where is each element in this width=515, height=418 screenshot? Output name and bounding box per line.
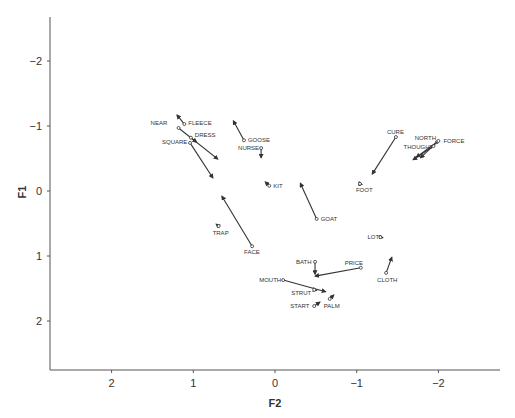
onset-marker (268, 184, 271, 187)
vowel-label: NURSE (238, 145, 259, 151)
vowel-label: BATH (296, 259, 312, 265)
onset-marker (437, 139, 440, 142)
onset-marker (183, 123, 186, 126)
onset-marker (314, 260, 317, 263)
trajectory-arrow (190, 143, 213, 178)
x-tick-label: −2 (432, 377, 445, 389)
trajectory-arrow (315, 268, 361, 276)
vowel-label: LOT (367, 234, 379, 240)
trajectory-arrow (233, 121, 244, 141)
vowel-goat: GOAT (300, 183, 337, 222)
onset-marker (189, 136, 192, 139)
onset-marker (242, 139, 245, 142)
onset-marker (313, 305, 316, 308)
y-ticks: −2−1012 (29, 55, 50, 327)
y-axis-title: F1 (16, 186, 28, 199)
vowel-label: NEAR (151, 120, 168, 126)
vowel-thought: THOUGHT (403, 144, 435, 160)
x-tick-label: −1 (350, 377, 363, 389)
vowel-label: FOOT (356, 187, 373, 193)
vowel-trap: TRAP (213, 224, 229, 236)
vowel-formant-chart: −2−1012 210−1−2 F1 F2 FLEECENEARDRESSSQU… (0, 0, 515, 418)
onset-marker (313, 288, 316, 291)
vowel-cloth: CLOTH (377, 257, 397, 283)
x-tick-label: 1 (190, 377, 196, 389)
vowel-label: START (290, 303, 309, 309)
y-tick-label: 0 (36, 185, 42, 197)
x-axis-title: F2 (269, 397, 282, 409)
onset-marker (177, 126, 180, 129)
vowel-label: PRICE (345, 260, 363, 266)
trajectory-arrow (300, 183, 316, 219)
vowel-label: FORCE (443, 138, 464, 144)
onset-marker (394, 136, 397, 139)
x-ticks: 210−1−2 (109, 370, 445, 389)
vowel-label: FACE (244, 249, 260, 255)
vowel-label: SQUARE (162, 139, 187, 145)
onset-marker (359, 266, 362, 269)
trajectory-arrow (386, 257, 392, 273)
onset-marker (260, 147, 263, 150)
onset-marker (282, 279, 285, 282)
y-tick-label: −2 (29, 55, 42, 67)
vowel-dress: DRESS (189, 132, 215, 143)
trajectory-arrow (222, 196, 252, 246)
axes: −2−1012 210−1−2 F1 F2 (16, 17, 500, 409)
plot-area: FLEECENEARDRESSSQUAREGOOSENURSEKITGOATFO… (151, 115, 465, 309)
vowel-label: FLEECE (188, 120, 211, 126)
vowel-label: PALM (324, 303, 340, 309)
onset-marker (379, 236, 382, 239)
vowel-kit: KIT (265, 182, 283, 189)
vowel-price: PRICE (315, 260, 363, 276)
vowel-label: GOOSE (248, 137, 270, 143)
vowel-label: NORTH (415, 135, 436, 141)
vowel-palm: PALM (324, 295, 340, 309)
vowel-strut: STRUT (291, 288, 316, 296)
vowel-label: GOAT (321, 216, 338, 222)
vowel-face: FACE (222, 196, 260, 255)
x-tick-label: 0 (272, 377, 278, 389)
vowel-bath: BATH (296, 259, 317, 274)
trajectory-arrow (372, 137, 396, 174)
vowel-lot: LOT (367, 234, 382, 240)
vowel-label: CLOTH (377, 277, 397, 283)
vowel-label: STRUT (291, 290, 311, 296)
y-tick-label: −1 (29, 120, 42, 132)
vowel-nurse: NURSE (238, 145, 263, 158)
vowel-cure: CURE (372, 129, 404, 174)
vowel-label: DRESS (195, 132, 216, 138)
vowel-start: START (290, 302, 320, 309)
onset-marker (385, 271, 388, 274)
vowel-label: MOUTH (259, 277, 281, 283)
vowel-label: TRAP (213, 230, 229, 236)
onset-marker (251, 245, 254, 248)
onset-marker (358, 182, 361, 185)
onset-marker (189, 141, 192, 144)
vowel-label: CURE (387, 129, 404, 135)
y-tick-label: 2 (36, 315, 42, 327)
y-tick-label: 1 (36, 250, 42, 262)
vowel-goose: GOOSE (233, 121, 270, 144)
onset-marker (328, 297, 331, 300)
vowel-fleece: FLEECE (177, 115, 212, 126)
x-tick-label: 2 (109, 377, 115, 389)
onset-marker (315, 217, 318, 220)
vowel-square: SQUARE (162, 139, 213, 178)
vowel-label: THOUGHT (403, 144, 433, 150)
vowel-foot: FOOT (356, 182, 373, 193)
vowel-label: KIT (273, 183, 283, 189)
onset-marker (217, 225, 220, 228)
